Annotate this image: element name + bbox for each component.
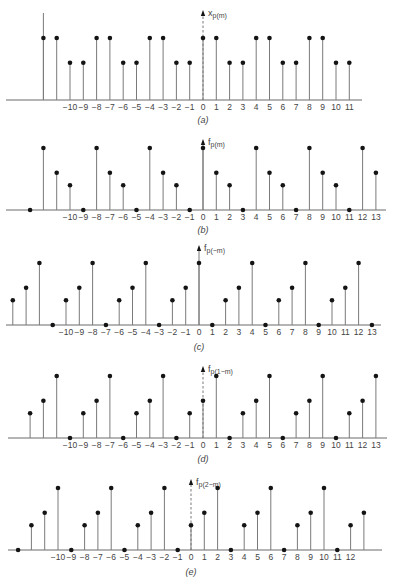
panel-e: fp(2−m)−10−9−8−7−6−5−4−3−2−1012345678910… xyxy=(8,477,382,577)
stem-dot xyxy=(29,523,34,528)
x-tick-label: 5 xyxy=(255,552,260,562)
x-tick-label: 6 xyxy=(276,327,281,337)
x-tick-label: −10 xyxy=(63,102,78,112)
x-tick-label: −10 xyxy=(51,552,66,562)
x-tick-label: 5 xyxy=(267,212,272,222)
x-tick-label: 7 xyxy=(290,327,295,337)
stem-dot xyxy=(189,523,194,528)
stem-dot xyxy=(54,36,59,41)
stem-dot xyxy=(94,399,99,404)
stem-dot xyxy=(254,399,259,404)
x-tick-label: 13 xyxy=(371,212,381,222)
stem-dot xyxy=(255,511,260,516)
stem-dot xyxy=(68,61,73,66)
stem-dot xyxy=(148,146,153,151)
x-tick-label: −7 xyxy=(105,212,115,222)
stem-dot xyxy=(223,298,228,303)
stem-dot xyxy=(94,36,99,41)
x-tick-label: 2 xyxy=(227,212,232,222)
stem-dot xyxy=(214,171,219,176)
stem-dot xyxy=(360,146,365,151)
stem-dot xyxy=(360,399,365,404)
x-tick-label: −4 xyxy=(145,102,155,112)
stem-dot xyxy=(267,374,272,379)
x-tick-label: −1 xyxy=(173,552,183,562)
stem-dot xyxy=(109,486,114,491)
x-tick-label: 8 xyxy=(303,327,308,337)
x-tick-label: −8 xyxy=(80,552,90,562)
stem-dot xyxy=(37,261,42,266)
stem-dot xyxy=(201,399,206,404)
stem-dot xyxy=(214,374,219,379)
stem-dot xyxy=(11,298,16,303)
stem-dot xyxy=(108,36,113,41)
stem-dot xyxy=(334,183,339,188)
x-tick-label: 11 xyxy=(345,440,354,450)
x-tick-label: −2 xyxy=(172,102,182,112)
x-tick-label: 6 xyxy=(280,440,285,450)
stem-dot xyxy=(16,548,21,553)
stem-dot xyxy=(42,511,47,516)
stem-dot xyxy=(68,183,73,188)
panel-a: xp(m)−10−9−8−7−6−5−4−3−2−101234567891011… xyxy=(6,8,362,125)
x-tick-label: 10 xyxy=(319,552,329,562)
stem-dot xyxy=(307,146,312,151)
x-tick-label: 12 xyxy=(346,552,356,562)
stem-dot xyxy=(41,399,46,404)
stem-dot xyxy=(295,523,300,528)
x-tick-label: 2 xyxy=(227,440,232,450)
stem-dot xyxy=(347,411,352,416)
x-tick-label: −2 xyxy=(160,552,170,562)
stem-dot xyxy=(294,411,299,416)
stem-dot xyxy=(347,61,352,66)
stem-dot xyxy=(290,286,295,291)
x-tick-label: 12 xyxy=(358,440,368,450)
panel-caption: (c) xyxy=(194,342,205,352)
x-tick-label: 12 xyxy=(354,327,364,337)
x-tick-label: −5 xyxy=(120,552,130,562)
stem-dot xyxy=(254,146,259,151)
stem-dot xyxy=(187,61,192,66)
x-tick-label: 4 xyxy=(242,552,247,562)
stem-dot xyxy=(81,411,86,416)
stem-dot xyxy=(161,171,166,176)
x-tick-label: 0 xyxy=(201,212,206,222)
x-tick-label: −3 xyxy=(146,552,156,562)
x-tick-label: −6 xyxy=(118,440,128,450)
x-tick-label: 0 xyxy=(197,327,202,337)
stem-dot xyxy=(374,374,379,379)
x-tick-label: 5 xyxy=(267,102,272,112)
stem-dot xyxy=(250,261,255,266)
stem-dot xyxy=(322,486,327,491)
stem-dot xyxy=(56,486,61,491)
panel-c: fp(−m)−10−9−8−7−6−5−4−3−2−10123456789101… xyxy=(6,243,381,352)
stem-dot xyxy=(227,183,232,188)
x-tick-label: −8 xyxy=(92,212,102,222)
stem-dot xyxy=(161,374,166,379)
stem-dot xyxy=(307,399,312,404)
stem-dot xyxy=(241,61,246,66)
x-tick-label: 1 xyxy=(210,327,215,337)
x-tick-label: −5 xyxy=(132,102,142,112)
stem-dot xyxy=(54,171,59,176)
stem-dot xyxy=(227,61,232,66)
stem-dot xyxy=(334,61,339,66)
stem-dot xyxy=(214,36,219,41)
stem-dot xyxy=(303,261,308,266)
stem-dot xyxy=(148,399,153,404)
stem-dot xyxy=(117,298,122,303)
stem-dot xyxy=(308,511,313,516)
stem-dot xyxy=(254,36,259,41)
arrow-head-icon xyxy=(201,139,205,145)
stem-dot xyxy=(277,298,282,303)
x-tick-label: 9 xyxy=(320,102,325,112)
x-tick-label: −5 xyxy=(128,327,138,337)
x-tick-label: −3 xyxy=(158,440,168,450)
x-tick-label: −9 xyxy=(78,102,88,112)
stem-plot-figure: xp(m)−10−9−8−7−6−5−4−3−2−101234567891011… xyxy=(0,0,393,584)
x-tick-label: 3 xyxy=(241,102,246,112)
x-tick-label: 2 xyxy=(227,102,232,112)
stem-dot xyxy=(269,486,274,491)
x-tick-label: 3 xyxy=(237,327,242,337)
stem-dot xyxy=(24,286,29,291)
